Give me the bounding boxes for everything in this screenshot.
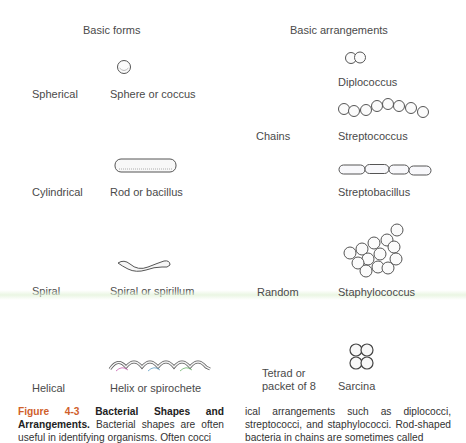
arrangement-category-tetrad: Tetrad or (262, 367, 305, 379)
figure-caption-right: ical arrangements such as diplococci, st… (245, 405, 451, 443)
form-category-spherical: Spherical (32, 88, 78, 100)
form-category-helical: Helical (32, 382, 65, 394)
basic-arrangements-header: Basic arrangements (290, 24, 388, 36)
arrangement-category-random: Random (257, 286, 299, 298)
form-name-spirochete: Helix or spirochete (110, 382, 201, 394)
arrangement-category-packet: packet of 8 (262, 380, 316, 392)
basic-forms-header: Basic forms (83, 24, 140, 36)
figure-label: Figure 4-3 (18, 406, 80, 417)
arrangement-name-streptococcus: Streptococcus (338, 130, 408, 142)
arrangement-name-staphylococcus: Staphylococcus (338, 286, 415, 298)
sarcina-icon (347, 342, 377, 372)
form-category-cylindrical: Cylindrical (32, 186, 83, 198)
spirillum-icon (116, 257, 172, 275)
staphylococcus-icon (342, 220, 408, 278)
form-name-coccus: Sphere or coccus (110, 88, 196, 100)
form-name-bacillus: Rod or bacillus (110, 186, 183, 198)
arrangement-category-chains: Chains (256, 130, 290, 142)
caption-right-text: ical arrangements such as diplococci, st… (245, 406, 451, 443)
arrangement-name-streptobacillus: Streptobacillus (338, 186, 410, 198)
streptobacillus-icon (338, 163, 434, 177)
spirochete-icon (108, 355, 214, 375)
bacillus-icon (114, 157, 178, 175)
streptococcus-icon (337, 98, 435, 120)
arrangement-name-diplococcus: Diplococcus (338, 76, 397, 88)
coccus-icon (116, 59, 132, 75)
figure-caption-left: Figure 4-3 Bacterial Shapes and Arrangem… (18, 405, 224, 443)
diplococcus-icon (344, 51, 368, 65)
arrangement-name-sarcina: Sarcina (338, 380, 375, 392)
